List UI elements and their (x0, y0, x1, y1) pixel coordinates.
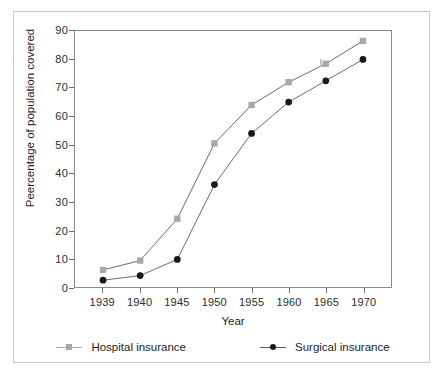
data-point-surgical-insurance (137, 272, 144, 279)
y-axis-tick-mark (69, 202, 74, 203)
x-axis-tick-mark (364, 288, 365, 293)
x-axis-tick-label: 1950 (202, 296, 227, 308)
legend-item-surgical-insurance: Surgical insurance (260, 341, 390, 353)
data-point-hospital-insurance (323, 61, 329, 67)
data-point-hospital-insurance (360, 38, 366, 44)
series-lines (75, 31, 391, 287)
x-axis-tick-mark (140, 288, 141, 293)
y-axis-title: Peercentage of population covered (24, 2, 36, 234)
x-axis-tick-mark (252, 288, 253, 293)
print-artifact-speck (320, 59, 322, 65)
y-axis-tick-labels: 0102030405060708090 (46, 30, 68, 288)
legend-item-hospital-insurance: Hospital insurance (56, 341, 186, 353)
chart-figure: Peercentage of population covered 010203… (0, 0, 443, 375)
y-axis-tick-label: 20 (55, 225, 68, 237)
y-axis-tick-label: 0 (62, 282, 68, 294)
data-point-hospital-insurance (137, 257, 143, 263)
legend-label-surgical-insurance: Surgical insurance (295, 341, 390, 353)
y-axis-tick-label: 10 (55, 253, 68, 265)
x-axis-tick-mark (289, 288, 290, 293)
data-point-hospital-insurance (100, 267, 106, 273)
x-axis-tick-label: 1960 (276, 296, 301, 308)
y-axis-tick-mark (69, 116, 74, 117)
y-axis-tick-mark (69, 173, 74, 174)
series-line-hospital-insurance (103, 41, 363, 270)
y-axis-tick-label: 40 (55, 167, 68, 179)
y-axis-tick-label: 90 (55, 24, 68, 36)
data-point-hospital-insurance (211, 140, 217, 146)
data-point-surgical-insurance (285, 99, 292, 106)
data-point-hospital-insurance (174, 216, 180, 222)
y-axis-tick-label: 30 (55, 196, 68, 208)
x-axis-tick-mark (326, 288, 327, 293)
data-point-surgical-insurance (211, 181, 218, 188)
data-point-hospital-insurance (248, 102, 254, 108)
y-axis-tick-mark (69, 30, 74, 31)
y-axis-tick-label: 60 (55, 110, 68, 122)
data-point-surgical-insurance (100, 277, 107, 284)
y-axis-tick-label: 70 (55, 81, 68, 93)
y-axis-tick-mark (69, 87, 74, 88)
x-axis-tick-label: 1965 (314, 296, 339, 308)
x-axis-tick-label: 1945 (164, 296, 189, 308)
x-axis-tick-label: 1955 (239, 296, 264, 308)
y-axis-tick-mark (69, 231, 74, 232)
x-axis-tick-label: 1970 (351, 296, 376, 308)
y-axis-tick-label: 50 (55, 139, 68, 151)
x-axis-tick-mark (214, 288, 215, 293)
legend-marker-surgical-insurance (260, 342, 286, 352)
data-point-hospital-insurance (286, 79, 292, 85)
chart-legend: Hospital insurance Surgical insurance (28, 336, 418, 358)
y-axis-tick-mark (69, 259, 74, 260)
legend-marker-hospital-insurance (56, 342, 82, 352)
legend-label-hospital-insurance: Hospital insurance (91, 341, 186, 353)
y-axis-tick-mark (69, 145, 74, 146)
x-axis-tick-mark (177, 288, 178, 293)
y-axis-tick-mark (69, 288, 74, 289)
data-point-surgical-insurance (248, 130, 255, 137)
series-line-surgical-insurance (103, 59, 363, 280)
data-point-surgical-insurance (174, 256, 181, 263)
data-point-surgical-insurance (322, 77, 329, 84)
x-axis-tick-label: 1939 (90, 296, 115, 308)
data-point-surgical-insurance (360, 56, 367, 63)
x-axis-title: Year (74, 315, 392, 327)
x-axis-tick-mark (102, 288, 103, 293)
y-axis-tick-label: 80 (55, 53, 68, 65)
plot-area (74, 30, 392, 288)
x-axis-tick-label: 1940 (127, 296, 152, 308)
y-axis-tick-mark (69, 59, 74, 60)
